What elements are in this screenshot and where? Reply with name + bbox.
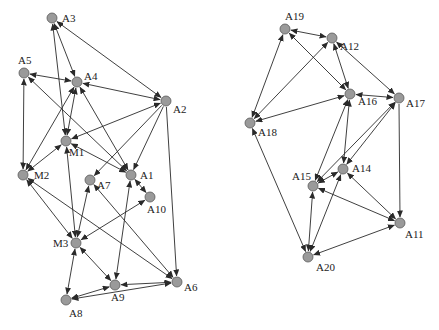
node-a3: A3	[47, 12, 76, 24]
node-label: A12	[340, 40, 359, 52]
edge-a3-a4	[54, 24, 75, 77]
node-circle-icon	[47, 13, 57, 23]
edge-a17-a11	[399, 104, 400, 217]
node-circle-icon	[110, 280, 120, 290]
edge-m3-a9	[80, 247, 111, 280]
node-a6: A6	[172, 277, 198, 293]
node-a15: A15	[292, 170, 318, 191]
edge-a8-a9	[72, 287, 110, 298]
edge-a14-a17	[347, 103, 396, 165]
node-a20: A20	[303, 252, 335, 273]
node-circle-icon	[394, 93, 404, 103]
node-label: A8	[69, 307, 83, 319]
node-a4: A4	[72, 70, 98, 87]
node-label: M3	[53, 237, 69, 249]
node-circle-icon	[71, 238, 81, 248]
edge-a7-m3	[77, 186, 88, 237]
edge-a5-m2	[23, 79, 24, 169]
node-circle-icon	[18, 170, 28, 180]
node-circle-icon	[327, 33, 337, 43]
node-a18: A18	[245, 118, 277, 138]
node-label: A5	[18, 54, 32, 66]
edge-a10-m3	[81, 200, 145, 240]
node-label: M2	[34, 169, 49, 181]
edge-a15-a20	[308, 192, 312, 251]
node-circle-icon	[61, 295, 71, 305]
node-label: A7	[97, 179, 111, 191]
node-circle-icon	[126, 170, 136, 180]
node-label: A18	[258, 126, 277, 138]
edge-a1-a9	[116, 181, 130, 279]
network-diagram: A3A4A5A2M1M2A7A1A10M3A9A6A8A19A12A16A17A…	[0, 0, 439, 330]
node-circle-icon	[61, 136, 71, 146]
node-label: A3	[62, 12, 76, 24]
node-label: A19	[285, 10, 304, 22]
node-circle-icon	[19, 68, 29, 78]
edge-a7-a6	[94, 185, 173, 278]
node-label: A6	[184, 281, 198, 293]
node-circle-icon	[172, 277, 182, 287]
node-label: A17	[406, 97, 425, 109]
edge-m3-a8	[67, 249, 75, 294]
edge-a3-a2	[57, 22, 161, 98]
nodes-layer: A3A4A5A2M1M2A7A1A10M3A9A6A8A19A12A16A17A…	[18, 10, 425, 319]
node-a14: A14	[338, 162, 371, 174]
node-m1: M1	[61, 136, 84, 158]
edge-a4-m1	[67, 88, 76, 135]
node-m2: M2	[18, 169, 49, 181]
node-label: A1	[140, 169, 153, 181]
node-a12: A12	[327, 33, 359, 52]
edge-a11-a20	[314, 225, 395, 255]
edge-a2-a6	[166, 107, 176, 276]
edge-m2-a4	[26, 87, 74, 170]
edge-a19-a16	[289, 33, 346, 90]
node-label: A10	[147, 203, 166, 215]
node-label: A2	[173, 103, 186, 115]
edge-a2-a1	[134, 106, 164, 169]
node-a10: A10	[145, 192, 166, 215]
edge-a20-a18	[252, 129, 305, 252]
edge-m1-m3	[67, 147, 76, 237]
node-circle-icon	[308, 181, 318, 191]
node-circle-icon	[161, 96, 171, 106]
edge-a18-a16	[256, 96, 344, 122]
edge-a5-a4	[30, 74, 71, 81]
edge-a4-a2	[83, 83, 160, 99]
node-label: A9	[111, 291, 125, 303]
edge-a19-a12	[291, 30, 326, 37]
node-label: A15	[292, 170, 311, 182]
edge-a18-a12	[254, 42, 328, 118]
node-circle-icon	[303, 252, 313, 262]
node-circle-icon	[85, 175, 95, 185]
node-label: A4	[84, 70, 98, 82]
node-m3: M3	[53, 237, 81, 249]
node-label: A14	[352, 162, 371, 174]
node-circle-icon	[395, 218, 405, 228]
node-label: A11	[405, 228, 424, 240]
edge-a15-a11	[319, 188, 395, 220]
node-circle-icon	[345, 89, 355, 99]
node-label: A16	[358, 95, 377, 107]
edge-m2-m3	[27, 180, 73, 239]
node-a1: A1	[126, 169, 153, 181]
node-circle-icon	[72, 77, 82, 87]
node-a11: A11	[395, 218, 424, 240]
node-a9: A9	[110, 280, 125, 303]
edges-layer	[23, 22, 400, 300]
node-circle-icon	[245, 118, 255, 128]
node-circle-icon	[145, 192, 155, 202]
node-a2: A2	[161, 96, 186, 115]
node-circle-icon	[338, 164, 348, 174]
node-a7: A7	[85, 175, 111, 191]
node-label: M1	[69, 146, 84, 158]
edge-a1-a10	[135, 180, 146, 193]
edge-a14-a11	[347, 173, 395, 219]
node-a16: A16	[345, 89, 377, 107]
edge-a1-a4	[80, 87, 128, 170]
node-circle-icon	[280, 24, 290, 34]
node-label: A20	[316, 261, 335, 273]
